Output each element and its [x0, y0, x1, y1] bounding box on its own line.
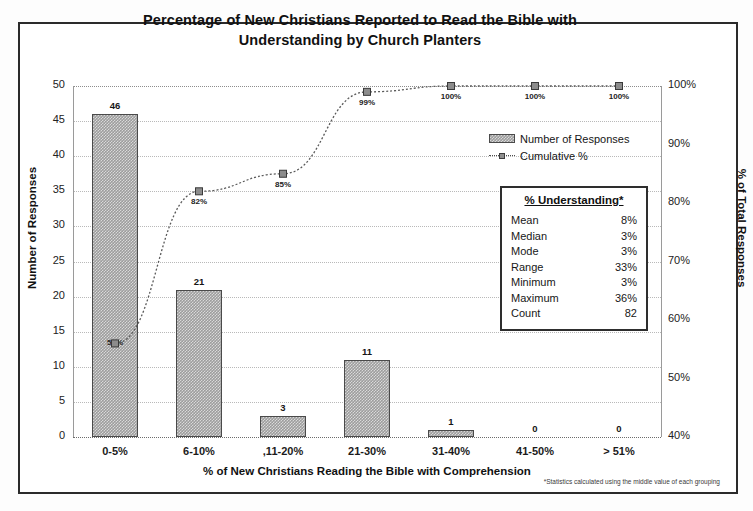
chart-footnote: *Statistics calculated using the middle … — [420, 478, 720, 485]
cumulative-value-label: 100% — [599, 92, 639, 101]
chart-title-line-2: Understanding by Church Planters — [60, 30, 660, 50]
statistics-row-label: Mean — [511, 213, 539, 229]
statistics-row-value: 3% — [621, 244, 637, 260]
y-axis-left-tick-label: 15 — [35, 324, 65, 336]
y-axis-left-tick-label: 20 — [35, 289, 65, 301]
statistics-row-value: 3% — [621, 229, 637, 245]
cumulative-value-label: 100% — [431, 92, 471, 101]
cumulative-marker — [196, 188, 203, 195]
statistics-box-title: % Understanding* — [511, 194, 637, 213]
statistics-row-label: Minimum — [511, 275, 556, 291]
cumulative-marker — [616, 83, 623, 90]
statistics-row-label: Mode — [511, 244, 539, 260]
cumulative-marker — [448, 83, 455, 90]
legend-item-responses: Number of Responses — [489, 130, 629, 147]
x-axis-tick-label: 21-30% — [325, 445, 409, 457]
statistics-row: Count82 — [511, 306, 637, 322]
statistics-row-value: 36% — [615, 291, 637, 307]
statistics-row-label: Maximum — [511, 291, 559, 307]
line-marker-icon — [489, 151, 515, 160]
y-axis-right-tick-label: 40% — [668, 429, 710, 441]
cumulative-marker — [112, 340, 119, 347]
cumulative-marker — [364, 88, 371, 95]
statistics-box: % Understanding* Mean8%Median3%Mode3%Ran… — [500, 186, 648, 331]
bar-swatch-icon — [489, 134, 515, 143]
statistics-row: Median3% — [511, 229, 637, 245]
y-axis-left-tick-label: 40 — [35, 148, 65, 160]
x-axis-tick-label: ,11-20% — [241, 445, 325, 457]
x-axis-tick-label: 6-10% — [157, 445, 241, 457]
x-axis-tick-label: 31-40% — [409, 445, 493, 457]
statistics-row: Minimum3% — [511, 275, 637, 291]
x-axis-tick-label: 41-50% — [493, 445, 577, 457]
cumulative-value-label: 100% — [515, 92, 555, 101]
x-axis-tick-label: 0-5% — [73, 445, 157, 457]
y-axis-right-tick-label: 80% — [668, 195, 710, 207]
statistics-row-value: 3% — [621, 275, 637, 291]
y-axis-left-tick-label: 0 — [35, 429, 65, 441]
chart-title: Percentage of New Christians Reported to… — [60, 10, 660, 50]
gridline — [73, 437, 661, 438]
y-axis-right-title: % of Total Responses — [736, 148, 748, 308]
y-axis-left-tick-label: 35 — [35, 183, 65, 195]
statistics-row-value: 33% — [615, 260, 637, 276]
y-axis-left-tick-label: 5 — [35, 394, 65, 406]
y-axis-right-tick-label: 90% — [668, 137, 710, 149]
x-axis-ticks: 0-5%6-10%,11-20%21-30%31-40%41-50%> 51% — [73, 445, 661, 463]
cumulative-marker — [532, 83, 539, 90]
cumulative-value-label: 85% — [263, 180, 303, 189]
statistics-row-label: Count — [511, 306, 540, 322]
chart-legend: Number of Responses Cumulative % — [489, 130, 629, 164]
y-axis-left-tick-label: 30 — [35, 218, 65, 230]
y-axis-left-title: Number of Responses — [26, 148, 38, 308]
x-axis-tick-label: > 51% — [577, 445, 661, 457]
y-axis-left-tick-label: 45 — [35, 113, 65, 125]
y-axis-right-tick-label: 50% — [668, 371, 710, 383]
chart-figure: Percentage of New Christians Reported to… — [0, 0, 753, 511]
plot-right-spine — [661, 86, 662, 437]
statistics-row-label: Median — [511, 229, 547, 245]
x-axis-title: % of New Christians Reading the Bible wi… — [73, 465, 661, 477]
y-axis-right-tick-label: 70% — [668, 254, 710, 266]
statistics-rows: Mean8%Median3%Mode3%Range33%Minimum3%Max… — [511, 213, 637, 322]
cumulative-value-label: 82% — [179, 197, 219, 206]
y-axis-right-ticks: 40%50%60%70%80%90%100% — [668, 86, 712, 437]
statistics-row: Maximum36% — [511, 291, 637, 307]
statistics-row: Mode3% — [511, 244, 637, 260]
y-axis-right-tick-label: 100% — [668, 78, 710, 90]
y-axis-right-tick-label: 60% — [668, 312, 710, 324]
cumulative-marker — [280, 170, 287, 177]
statistics-row-value: 8% — [621, 213, 637, 229]
legend-label-cumulative: Cumulative % — [520, 150, 588, 162]
legend-item-cumulative: Cumulative % — [489, 147, 629, 164]
y-axis-left-tick-label: 10 — [35, 359, 65, 371]
chart-title-line-1: Percentage of New Christians Reported to… — [60, 10, 660, 30]
y-axis-left-tick-label: 25 — [35, 254, 65, 266]
statistics-row: Range33% — [511, 260, 637, 276]
statistics-row-value: 82 — [625, 306, 637, 322]
y-axis-left-tick-label: 50 — [35, 78, 65, 90]
cumulative-value-label: 99% — [347, 98, 387, 107]
statistics-row-label: Range — [511, 260, 543, 276]
legend-label-responses: Number of Responses — [520, 133, 629, 145]
statistics-row: Mean8% — [511, 213, 637, 229]
